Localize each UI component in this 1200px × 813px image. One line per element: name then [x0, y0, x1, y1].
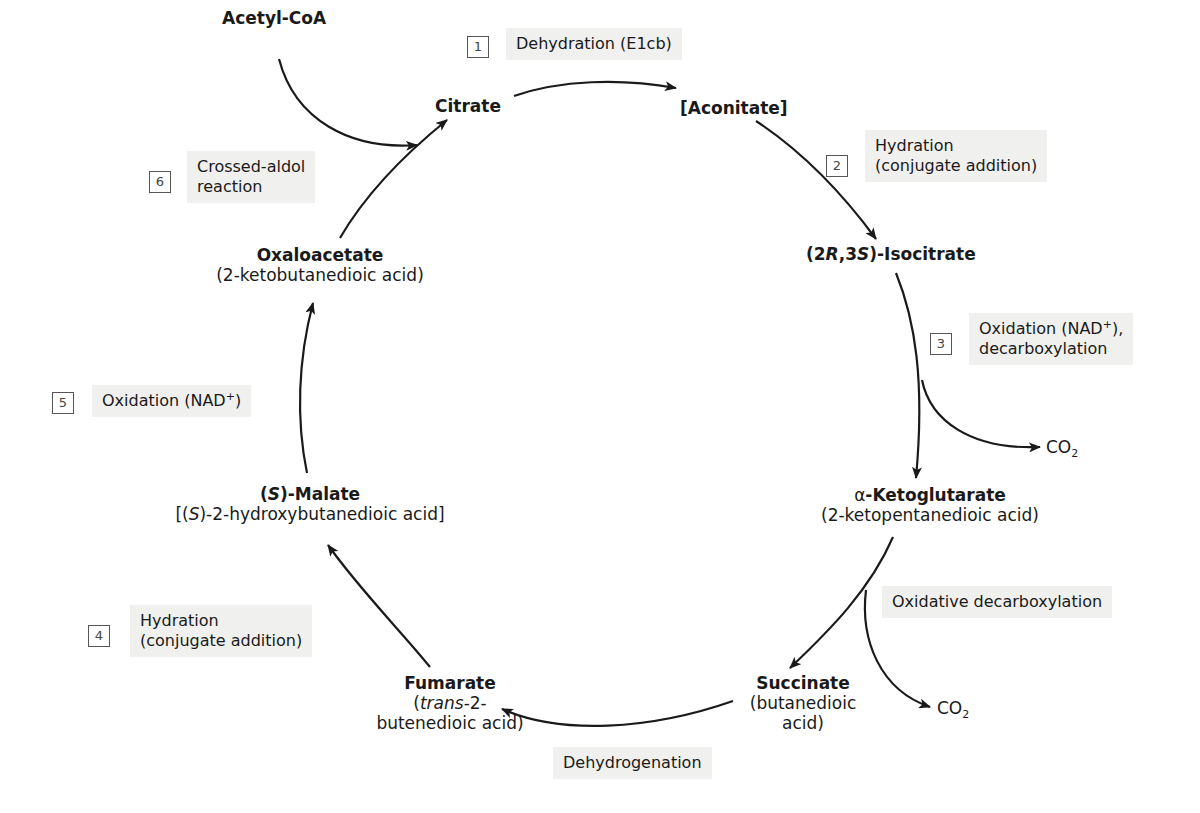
compound-malate: (S)-Malate [(S)-2-hydroxybutanedioic aci… [160, 484, 460, 524]
compound-oxaloacetate: Oxaloacetate (2-ketobutanedioic acid) [190, 245, 450, 285]
arrow-citrate-to-aconitate [514, 82, 676, 96]
arrow-ketoglutarate-to-succinate [790, 537, 893, 668]
compound-citrate: Citrate [435, 96, 501, 116]
compound-succinate: Succinate (butanedioic acid) [733, 673, 873, 733]
arrow-isocitrate-to-ketoglutarate [896, 273, 919, 478]
step-label-dehydrogenation: Dehydrogenation [553, 747, 712, 779]
arrow-malate-to-oxaloacetate [300, 303, 313, 473]
step-number-5: 5 [52, 392, 74, 414]
arrow-oxaloacetate-to-citrate [340, 120, 447, 238]
arrow-fumarate-to-malate [328, 545, 430, 667]
step-number-1: 1 [467, 36, 489, 58]
step-label-2: Hydration (conjugate addition) [865, 130, 1047, 182]
arrow-aconitate-to-isocitrate [756, 121, 876, 239]
step-label-6: Crossed-aldol reaction [187, 151, 315, 203]
compound-ketoglutarate: α-Ketoglutarate (2-ketopentanedioic acid… [790, 485, 1070, 525]
step-number-6: 6 [149, 171, 171, 193]
compound-isocitrate: (2R,3S)-Isocitrate [806, 244, 976, 264]
step-label-oxidative-decarboxylation: Oxidative decarboxylation [882, 586, 1112, 618]
step-number-2: 2 [826, 155, 848, 177]
step-label-5: Oxidation (NAD+) [92, 385, 251, 417]
compound-fumarate: Fumarate (trans-2- butenedioic acid) [360, 673, 540, 733]
arrow-co2-step3 [922, 380, 1040, 447]
arrow-acetylcoa-to-citrate [279, 59, 417, 146]
step-label-1: Dehydration (E1cb) [506, 28, 682, 60]
step-number-4: 4 [88, 625, 110, 647]
product-co2-oxdecarb: CO2 [937, 698, 969, 718]
step-label-3: Oxidation (NAD+), decarboxylation [969, 313, 1133, 365]
step-number-3: 3 [930, 333, 952, 355]
step-label-4: Hydration (conjugate addition) [130, 605, 312, 657]
product-co2-step3: CO2 [1046, 437, 1078, 457]
compound-aconitate: [Aconitate] [680, 98, 788, 118]
compound-acetyl-coa: Acetyl-CoA [222, 8, 326, 28]
